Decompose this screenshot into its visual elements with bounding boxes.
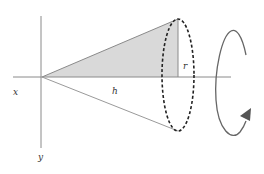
radius-label: r xyxy=(183,61,188,71)
cone-rotation-diagram: x y h r xyxy=(0,0,264,174)
height-label: h xyxy=(112,86,118,96)
rotation-arrowhead-icon xyxy=(240,108,251,121)
y-axis-label: y xyxy=(37,152,44,162)
cone-lower-edge xyxy=(42,77,178,131)
rotation-arrow-arc xyxy=(216,30,246,135)
diagram-svg: x y h r xyxy=(0,0,264,174)
x-axis-label: x xyxy=(13,87,18,97)
